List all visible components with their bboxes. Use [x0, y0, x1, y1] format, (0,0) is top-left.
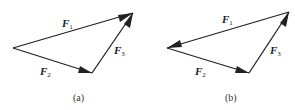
figure-b: F1 F2 F3 (b)	[167, 12, 289, 104]
arrowhead-f2-b	[235, 66, 249, 73]
label-f3-a: F3	[113, 44, 125, 58]
label-f2-a: F2	[39, 65, 51, 79]
label-f1-a: F1	[61, 17, 73, 31]
arrowhead-f1-b	[167, 40, 182, 48]
arrowhead-f2-a	[78, 66, 92, 73]
label-f1-b: F1	[221, 13, 233, 27]
label-f3-b: F3	[269, 44, 281, 58]
figure-a: F1 F2 F3 (a)	[13, 13, 133, 104]
caption-b: (b)	[225, 92, 237, 104]
label-f2-b: F2	[194, 65, 206, 79]
force-triangle-diagrams: F1 F2 F3 (a) F1 F2 F3 (b)	[0, 0, 295, 110]
caption-a: (a)	[73, 92, 84, 104]
vector-f1-a	[13, 13, 133, 48]
